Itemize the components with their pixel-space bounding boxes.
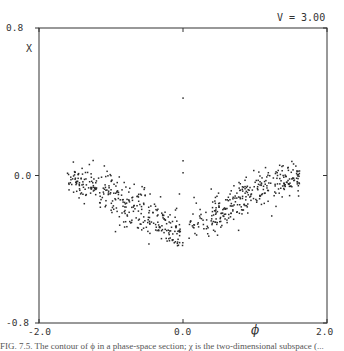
- data-point: [111, 180, 113, 182]
- data-point: [93, 178, 95, 180]
- data-point: [96, 180, 98, 182]
- data-point: [105, 187, 107, 189]
- data-point: [128, 191, 130, 193]
- data-point: [206, 219, 208, 221]
- data-point: [141, 229, 143, 231]
- data-point: [78, 174, 80, 176]
- data-point: [238, 196, 240, 198]
- data-point: [82, 194, 84, 196]
- data-point: [216, 224, 218, 226]
- data-point: [292, 169, 294, 171]
- data-point: [95, 194, 97, 196]
- data-point: [136, 205, 138, 207]
- data-point: [164, 229, 166, 231]
- data-point: [279, 165, 281, 167]
- data-point: [223, 216, 225, 218]
- data-point: [283, 182, 285, 184]
- data-point: [190, 221, 192, 223]
- data-point: [108, 194, 110, 196]
- data-point: [250, 195, 252, 197]
- data-point: [76, 191, 78, 193]
- data-point: [129, 201, 131, 203]
- data-point: [297, 178, 299, 180]
- data-point: [210, 220, 212, 222]
- data-point: [88, 187, 90, 189]
- data-point: [93, 185, 95, 187]
- data-point: [208, 235, 210, 237]
- data-point: [143, 222, 145, 224]
- data-point: [81, 192, 83, 194]
- data-point: [182, 97, 184, 99]
- data-point: [179, 231, 181, 233]
- data-point: [211, 215, 213, 217]
- data-point: [123, 221, 125, 223]
- data-point: [162, 214, 164, 216]
- data-point: [291, 161, 293, 163]
- data-point: [72, 178, 74, 180]
- data-point: [128, 212, 130, 214]
- data-point: [259, 181, 261, 183]
- data-point: [140, 223, 142, 225]
- data-point: [210, 188, 212, 190]
- data-point: [254, 182, 256, 184]
- data-point: [231, 203, 233, 205]
- data-point: [287, 167, 289, 169]
- data-point: [132, 200, 134, 202]
- data-point: [245, 177, 247, 179]
- data-point: [215, 197, 217, 199]
- data-point: [238, 230, 240, 232]
- data-point: [221, 225, 223, 227]
- data-point: [149, 210, 151, 212]
- data-point: [70, 182, 72, 184]
- data-point: [217, 222, 219, 224]
- data-point: [102, 197, 104, 199]
- data-point: [274, 185, 276, 187]
- data-point: [179, 242, 181, 244]
- data-point: [232, 198, 234, 200]
- data-point: [143, 216, 145, 218]
- data-point: [298, 195, 300, 197]
- data-point: [245, 199, 247, 201]
- data-point: [289, 178, 291, 180]
- data-point: [177, 239, 179, 241]
- data-point: [108, 190, 110, 192]
- data-point: [170, 230, 172, 232]
- data-point: [249, 187, 251, 189]
- data-point: [244, 205, 246, 207]
- data-point: [106, 171, 108, 173]
- data-point: [99, 192, 101, 194]
- data-point: [85, 172, 87, 174]
- data-point: [220, 226, 222, 228]
- data-point: [105, 176, 107, 178]
- data-point: [164, 219, 166, 221]
- data-point: [197, 223, 199, 225]
- data-point: [234, 195, 236, 197]
- data-point: [79, 184, 81, 186]
- data-point: [115, 193, 117, 195]
- data-point: [291, 172, 293, 174]
- data-point: [273, 177, 275, 179]
- data-point: [95, 182, 97, 184]
- data-point: [198, 226, 200, 228]
- data-point: [215, 203, 217, 205]
- data-point: [126, 199, 128, 201]
- data-point: [113, 192, 115, 194]
- data-point: [281, 166, 283, 168]
- data-point: [233, 185, 235, 187]
- data-point: [149, 221, 151, 223]
- data-point: [264, 181, 266, 183]
- data-point: [248, 194, 250, 196]
- data-point: [110, 175, 112, 177]
- data-point: [79, 190, 81, 192]
- data-point: [197, 222, 199, 224]
- data-point: [233, 219, 235, 221]
- data-point: [78, 197, 80, 199]
- data-point: [99, 196, 101, 198]
- data-point: [146, 227, 148, 229]
- data-point: [139, 204, 141, 206]
- data-point: [214, 200, 216, 202]
- data-point: [252, 189, 254, 191]
- data-point: [192, 225, 194, 227]
- data-point: [148, 212, 150, 214]
- data-point: [251, 193, 253, 195]
